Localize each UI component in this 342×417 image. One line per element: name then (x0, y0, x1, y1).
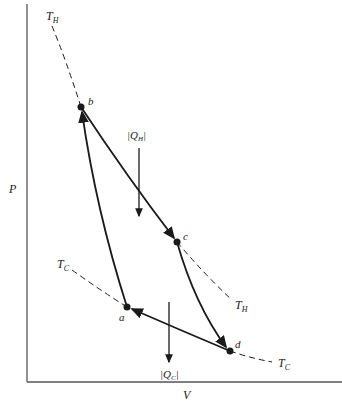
isotherm-cold-label-left: TC (57, 257, 70, 273)
point-d-label: d (235, 338, 241, 350)
q-hot-label: |QH| (127, 129, 146, 143)
heat-flow-cold: |QC| (160, 302, 179, 382)
isotherm-hot: TH TH (46, 9, 249, 314)
point-b (78, 104, 85, 111)
isotherm-hot-label-bottom: TH (235, 298, 249, 314)
q-cold-label: |QC| (160, 368, 179, 382)
point-a (124, 304, 131, 311)
heat-flow-hot: |QH| (127, 129, 146, 216)
isotherm-cold: TC TC (57, 257, 291, 372)
path-b-to-c (81, 107, 174, 238)
point-d (227, 348, 234, 355)
point-c (174, 239, 181, 246)
state-points: a b c d (78, 95, 242, 355)
pv-diagram: P V TH TH TC TC a b c d |QH| (0, 0, 342, 417)
x-axis-label: V (183, 388, 192, 402)
isotherm-cold-label-right: TC (278, 356, 291, 372)
point-b-label: b (88, 95, 94, 107)
y-axis-label: P (8, 182, 17, 196)
cycle (81, 107, 230, 351)
axes: P V (8, 4, 342, 402)
isotherm-hot-label-top: TH (46, 9, 60, 25)
point-c-label: c (183, 230, 188, 242)
point-a-label: a (119, 311, 125, 323)
